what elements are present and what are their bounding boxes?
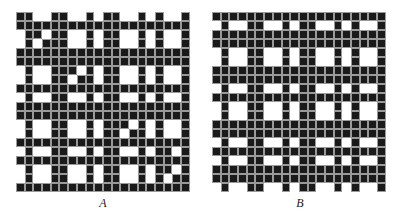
empty-cell <box>342 102 351 111</box>
filled-cell <box>273 66 282 75</box>
empty-cell <box>368 111 377 120</box>
filled-cell <box>68 111 77 120</box>
filled-cell <box>290 165 299 174</box>
filled-cell <box>247 21 256 30</box>
filled-cell <box>334 30 343 39</box>
empty-cell <box>325 138 334 147</box>
filled-cell <box>229 12 238 21</box>
filled-cell <box>138 12 147 21</box>
filled-cell <box>77 183 86 192</box>
filled-cell <box>51 165 60 174</box>
filled-cell <box>146 111 155 120</box>
filled-cell <box>155 138 164 147</box>
filled-cell <box>77 57 86 66</box>
filled-cell <box>247 120 256 129</box>
filled-cell <box>181 12 190 21</box>
filled-cell <box>247 39 256 48</box>
filled-cell <box>164 138 173 147</box>
filled-cell <box>221 174 230 183</box>
filled-cell <box>181 120 190 129</box>
filled-cell <box>325 39 334 48</box>
filled-cell <box>25 165 34 174</box>
empty-cell <box>229 111 238 120</box>
filled-cell <box>129 111 138 120</box>
filled-cell <box>299 129 308 138</box>
filled-cell <box>16 57 25 66</box>
filled-cell <box>146 183 155 192</box>
filled-cell <box>221 147 230 156</box>
filled-cell <box>290 12 299 21</box>
filled-cell <box>59 129 68 138</box>
filled-cell <box>51 147 60 156</box>
filled-cell <box>255 156 264 165</box>
empty-cell <box>16 174 25 183</box>
filled-cell <box>351 129 360 138</box>
filled-cell <box>238 120 247 129</box>
filled-cell <box>377 66 386 75</box>
filled-cell <box>25 147 34 156</box>
filled-cell <box>16 183 25 192</box>
filled-cell <box>112 165 121 174</box>
filled-cell <box>51 156 60 165</box>
empty-cell <box>368 183 377 192</box>
empty-cell <box>146 12 155 21</box>
empty-cell <box>16 75 25 84</box>
filled-cell <box>351 138 360 147</box>
filled-cell <box>334 156 343 165</box>
filled-cell <box>282 30 291 39</box>
filled-cell <box>360 12 369 21</box>
empty-cell <box>172 39 181 48</box>
filled-cell <box>181 30 190 39</box>
filled-cell <box>316 147 325 156</box>
filled-cell <box>316 12 325 21</box>
filled-cell <box>325 66 334 75</box>
filled-cell <box>299 48 308 57</box>
empty-cell <box>368 48 377 57</box>
filled-cell <box>103 102 112 111</box>
filled-cell <box>42 39 51 48</box>
empty-cell <box>120 12 129 21</box>
filled-cell <box>334 12 343 21</box>
filled-cell <box>172 111 181 120</box>
empty-cell <box>129 120 138 129</box>
filled-cell <box>16 12 25 21</box>
empty-cell <box>164 129 173 138</box>
empty-cell <box>42 93 51 102</box>
filled-cell <box>120 84 129 93</box>
filled-cell <box>308 39 317 48</box>
filled-cell <box>308 147 317 156</box>
filled-cell <box>164 57 173 66</box>
filled-cell <box>138 138 147 147</box>
filled-cell <box>299 156 308 165</box>
filled-cell <box>146 21 155 30</box>
empty-cell <box>342 138 351 147</box>
filled-cell <box>360 30 369 39</box>
empty-cell <box>212 21 221 30</box>
empty-cell <box>229 183 238 192</box>
filled-cell <box>25 66 34 75</box>
filled-cell <box>264 12 273 21</box>
filled-cell <box>77 48 86 57</box>
filled-cell <box>290 174 299 183</box>
filled-cell <box>172 156 181 165</box>
empty-cell <box>94 75 103 84</box>
empty-cell <box>273 183 282 192</box>
empty-cell <box>316 111 325 120</box>
empty-cell <box>68 12 77 21</box>
filled-cell <box>112 12 121 21</box>
filled-cell <box>247 129 256 138</box>
empty-cell <box>146 165 155 174</box>
filled-cell <box>334 21 343 30</box>
filled-cell <box>255 48 264 57</box>
empty-cell <box>146 129 155 138</box>
filled-cell <box>247 102 256 111</box>
empty-cell <box>360 48 369 57</box>
empty-cell <box>368 156 377 165</box>
filled-cell <box>86 75 95 84</box>
empty-cell <box>146 66 155 75</box>
filled-cell <box>247 156 256 165</box>
empty-cell <box>342 48 351 57</box>
filled-cell <box>351 147 360 156</box>
filled-cell <box>59 93 68 102</box>
filled-cell <box>368 75 377 84</box>
